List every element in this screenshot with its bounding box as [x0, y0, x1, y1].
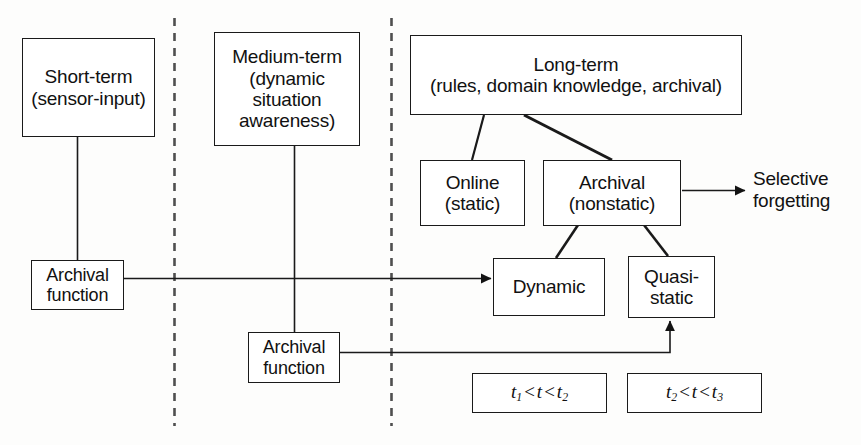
box-formula-interval-2[interactable]: t2<t<t3	[627, 373, 762, 413]
box-short-term-line2: (sensor-input)	[31, 88, 145, 109]
formula-interval-2: t2<t<t3	[666, 381, 723, 404]
label-selective-forgetting: Selective forgetting	[753, 168, 859, 211]
label-selective-forgetting-line2: forgetting	[753, 190, 830, 211]
box-medium-term-line2: (dynamic	[232, 68, 342, 89]
connector-archivalfnmid-to-quasistatic	[340, 321, 670, 353]
box-quasi-static-line1: Quasi-	[644, 266, 699, 287]
box-archival-function-mid-line1: Archival	[263, 337, 325, 357]
box-quasi-static-line2: static	[644, 287, 699, 308]
box-dynamic[interactable]: Dynamic	[493, 258, 605, 316]
box-long-term-line2: (rules, domain knowledge, archival)	[430, 75, 722, 96]
box-archival-function-left-line1: Archival	[46, 265, 108, 285]
box-archival-nonstatic[interactable]: Archival (nonstatic)	[543, 160, 681, 226]
box-online-static-line2: (static)	[445, 193, 500, 214]
box-short-term-line1: Short-term	[31, 66, 145, 87]
formula-interval-1: t1<t<t2	[511, 381, 568, 404]
box-archival-nonstatic-line2: (nonstatic)	[569, 193, 656, 214]
connector-archivalnonstatic-to-dynamic	[556, 225, 578, 258]
formula-2-op-1: <	[677, 381, 692, 402]
diagram-canvas: Short-term (sensor-input) Medium-term (d…	[0, 0, 861, 445]
box-formula-interval-1[interactable]: t1<t<t2	[472, 373, 607, 413]
connector-longterm-to-archivalnonstatic	[524, 115, 612, 160]
box-archival-nonstatic-text: Archival (nonstatic)	[569, 172, 656, 215]
box-long-term[interactable]: Long-term (rules, domain knowledge, arch…	[410, 35, 742, 115]
box-online-static-text: Online (static)	[445, 172, 500, 215]
formula-1-op-2: <	[542, 381, 557, 402]
box-dynamic-label: Dynamic	[513, 276, 586, 297]
box-online-static-line1: Online	[445, 172, 500, 193]
formula-2-op-2: <	[697, 381, 712, 402]
box-quasi-static[interactable]: Quasi- static	[628, 256, 715, 318]
box-medium-term-text: Medium-term (dynamic situation awareness…	[232, 46, 342, 131]
box-archival-function-left-text: Archival function	[46, 265, 108, 305]
formula-1-op-1: <	[522, 381, 537, 402]
box-archival-function-mid-text: Archival function	[263, 337, 325, 377]
box-quasi-static-text: Quasi- static	[644, 266, 699, 309]
box-medium-term-line4: awareness)	[232, 110, 342, 131]
formula-1-sub-b: 2	[562, 392, 568, 405]
connector-archivalnonstatic-to-quasistatic	[644, 225, 668, 256]
box-archival-function-mid-line2: function	[263, 358, 325, 378]
box-archival-nonstatic-line1: Archival	[569, 172, 656, 193]
box-short-term[interactable]: Short-term (sensor-input)	[22, 38, 155, 137]
label-selective-forgetting-line1: Selective	[753, 168, 828, 189]
box-medium-term-line3: situation	[232, 89, 342, 110]
box-short-term-text: Short-term (sensor-input)	[31, 66, 145, 109]
box-archival-function-left-line2: function	[46, 285, 108, 305]
box-medium-term-line1: Medium-term	[232, 46, 342, 67]
formula-2-sub-b: 3	[717, 392, 723, 405]
box-archival-function-mid[interactable]: Archival function	[248, 332, 340, 383]
box-long-term-line1: Long-term	[430, 54, 722, 75]
box-online-static[interactable]: Online (static)	[420, 160, 525, 226]
box-medium-term[interactable]: Medium-term (dynamic situation awareness…	[214, 32, 360, 146]
box-long-term-text: Long-term (rules, domain knowledge, arch…	[430, 54, 722, 97]
box-archival-function-left[interactable]: Archival function	[31, 260, 124, 310]
connector-longterm-to-online	[472, 115, 484, 160]
